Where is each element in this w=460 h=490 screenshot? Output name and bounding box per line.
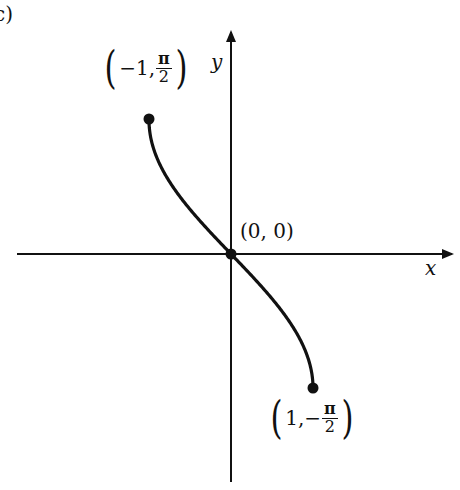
panel-label: c) xyxy=(0,2,13,26)
point-label-top-left: ( −1, π 2 ) xyxy=(102,46,190,90)
fraction-numerator: π xyxy=(322,401,338,419)
coord-x: −1, xyxy=(119,56,155,80)
point-label-bottom-right: ( 1,− π 2 ) xyxy=(268,396,356,440)
close-paren: ) xyxy=(175,46,187,90)
open-paren: ( xyxy=(271,396,283,440)
origin-point xyxy=(226,249,237,260)
endpoint-bottom-right xyxy=(308,383,319,394)
fraction: π 2 xyxy=(322,401,338,436)
fraction: π 2 xyxy=(156,51,172,86)
plot-canvas xyxy=(0,0,460,490)
close-paren: ) xyxy=(341,396,353,440)
arcsin-graph: c) y x ( −1, π 2 ) (0, 0) ( 1,− π 2 ) xyxy=(0,0,460,490)
y-axis-label: y xyxy=(211,50,222,74)
fraction-denominator: 2 xyxy=(323,419,337,436)
endpoint-top-left xyxy=(144,114,155,125)
x-axis-label: x xyxy=(425,256,436,280)
origin-label: (0, 0) xyxy=(240,219,294,243)
open-paren: ( xyxy=(105,46,117,90)
fraction-denominator: 2 xyxy=(157,69,171,86)
coord-x: 1,− xyxy=(285,406,321,430)
fraction-numerator: π xyxy=(156,51,172,69)
